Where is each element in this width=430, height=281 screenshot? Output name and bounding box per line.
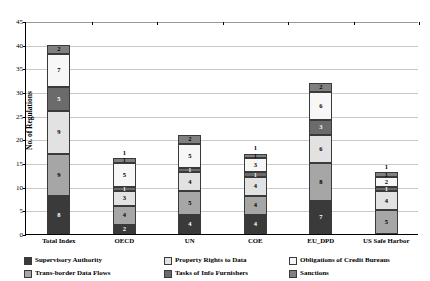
legend-swatch [289, 257, 297, 265]
legend-label: Supervisory Authority [35, 257, 102, 264]
stacked-bar[interactable]: 899572 [47, 45, 70, 234]
bar-series-container: 899572243151145415244413117863620541211 [26, 22, 418, 234]
bar-segment-value: 6 [319, 103, 322, 110]
y-axis-tick-label: 35 [16, 66, 23, 73]
bar-group: 786362 [309, 21, 332, 234]
bar-segment[interactable]: 1 [244, 154, 267, 159]
bar-segment[interactable]: 2 [113, 225, 136, 234]
bar-segment-value: 3 [123, 195, 126, 202]
bar-segment-value: 3 [319, 124, 322, 131]
chart-figure: 051015202530354045 No. of Regulations 89… [0, 0, 430, 281]
legend-label: Property Rights to Data [175, 257, 247, 264]
y-axis-tick-label: 15 [16, 161, 23, 168]
bar-segment[interactable]: 9 [47, 111, 70, 154]
bar-segment-value: 4 [254, 183, 257, 190]
x-axis-tick-mark [419, 22, 420, 25]
bar-segment-value: 4 [188, 221, 191, 228]
bar-segment[interactable]: 5 [178, 191, 201, 215]
legend-swatch [24, 270, 32, 278]
bar-segment[interactable]: 1 [113, 187, 136, 192]
bar-segment-value: 7 [57, 67, 60, 74]
bar-group: 4441311 [244, 21, 267, 234]
stacked-bar[interactable]: 243151 [113, 158, 136, 234]
bar-segment-value: 4 [385, 198, 388, 205]
y-axis-tick-label: 40 [16, 42, 23, 49]
plot-area: 051015202530354045 No. of Regulations 89… [25, 22, 418, 235]
bar-segment[interactable]: 1 [244, 172, 267, 177]
legend-item[interactable]: Trans-border Data Flows [24, 270, 164, 278]
x-axis-tick-label: EU_DPD [288, 237, 354, 244]
bar-segment-value: 1 [254, 172, 257, 179]
bar-segment-value: 3 [254, 162, 257, 169]
bar-segment[interactable]: 9 [47, 154, 70, 197]
bar-segment-value: 1 [385, 172, 388, 179]
bar-segment-value: 8 [319, 179, 322, 186]
bar-segment[interactable]: 2 [178, 135, 201, 144]
bar-segment[interactable]: 4 [178, 172, 201, 191]
bar-segment[interactable]: 8 [309, 163, 332, 201]
legend-label: Obligations of Credit Bureaus [300, 257, 390, 264]
bar-segment[interactable]: 6 [309, 92, 332, 120]
bar-segment[interactable]: 3 [244, 158, 267, 172]
stacked-bar[interactable]: 054121 [375, 172, 398, 234]
bar-segment-value: 5 [188, 153, 191, 160]
bar-segment[interactable]: 7 [47, 54, 70, 87]
bar-segment-value: 4 [188, 179, 191, 186]
bar-segment[interactable]: 4 [113, 206, 136, 225]
bar-segment[interactable]: 7 [309, 201, 332, 234]
bar-segment-value: 1 [254, 153, 257, 160]
y-axis-tick-mark [23, 235, 26, 236]
bar-segment[interactable]: 1 [178, 168, 201, 173]
bar-group: 0541211 [375, 21, 398, 234]
x-axis-tick-label: UN [157, 237, 223, 244]
bar-segment-value: 2 [188, 136, 191, 143]
bar-group: 899572 [47, 21, 70, 234]
bar-segment[interactable]: 3 [309, 120, 332, 134]
bar-segment[interactable]: 1 [113, 158, 136, 163]
bar-segment-value: 8 [57, 212, 60, 219]
bar-segment[interactable]: 5 [113, 163, 136, 187]
bar-segment[interactable]: 5 [375, 210, 398, 234]
y-axis-tick-label: 20 [16, 137, 23, 144]
bar-segment[interactable]: 4 [244, 196, 267, 215]
bar-segment-value: 2 [385, 179, 388, 186]
stacked-bar[interactable]: 454152 [178, 135, 201, 234]
bar-segment[interactable]: 6 [309, 135, 332, 163]
legend-swatch [289, 270, 297, 278]
x-axis-tick-label: US Safe Harbor [354, 237, 420, 244]
bar-segment[interactable]: 4 [375, 191, 398, 210]
legend-item[interactable]: Property Rights to Data [164, 257, 289, 265]
legend-swatch [24, 257, 32, 265]
bar-segment[interactable]: 4 [244, 215, 267, 234]
stacked-bar[interactable]: 786362 [309, 83, 332, 234]
bar-segment-value: 2 [319, 84, 322, 91]
bar-segment[interactable]: 4 [178, 215, 201, 234]
bar-top-value-label: 1 [375, 164, 398, 171]
bar-segment[interactable]: 5 [47, 87, 70, 111]
legend-item[interactable]: Supervisory Authority [24, 257, 164, 265]
legend-item[interactable]: Tasks of Info Furnishers [164, 270, 289, 278]
bar-group: 2431511 [113, 21, 136, 234]
legend-label: Trans-border Data Flows [35, 270, 111, 277]
bar-segment[interactable]: 1 [375, 172, 398, 177]
legend-item[interactable]: Obligations of Credit Bureaus [289, 257, 424, 265]
bar-segment-value: 1 [385, 186, 388, 193]
bar-segment-value: 5 [57, 96, 60, 103]
bar-segment[interactable]: 2 [375, 177, 398, 186]
bar-segment[interactable]: 3 [113, 191, 136, 205]
bar-segment[interactable]: 4 [244, 177, 267, 196]
bar-segment-value: 1 [123, 157, 126, 164]
bar-segment[interactable]: 5 [178, 144, 201, 168]
bar-segment[interactable]: 8 [47, 196, 70, 234]
bar-segment[interactable]: 2 [47, 45, 70, 54]
stacked-bar[interactable]: 444131 [244, 154, 267, 234]
legend-item[interactable]: Sanctions [289, 270, 424, 278]
bar-segment-value: 4 [254, 221, 257, 228]
x-axis-tick-mark [354, 22, 355, 25]
bar-segment[interactable]: 2 [309, 83, 332, 92]
bar-segment-value: 2 [123, 226, 126, 233]
bar-segment[interactable]: 1 [375, 187, 398, 192]
x-axis-tick-label: COE [223, 237, 289, 244]
bar-segment-value: 5 [123, 172, 126, 179]
x-axis-tick-label: OECD [92, 237, 158, 244]
